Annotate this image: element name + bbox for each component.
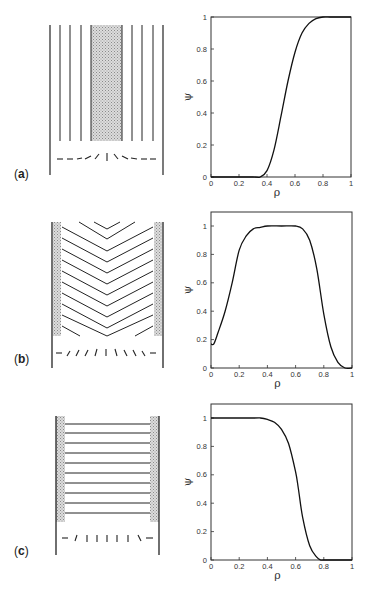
y-tick-label: 0.8 [197,45,207,54]
plot-a: 00.20.40.60.8100.20.40.60.81ρψ [181,13,353,200]
y-tick-label: 0.6 [197,77,207,86]
horizontal-layers [65,424,150,513]
x-tick-label: 0.6 [290,179,300,188]
y-tick-label: 0 [203,556,207,565]
plot-c: 00.20.40.60.8100.20.40.60.81ρψ [181,404,354,582]
y-tick-label: 0.4 [197,109,207,118]
panel-label-c: (c) [14,544,29,558]
data-curve [211,17,351,178]
y-tick-label: 1 [203,414,207,423]
x-tick-label: 0.6 [290,370,300,379]
y-tick-label: 0.4 [197,307,207,316]
y-tick-label: 0.8 [197,250,207,259]
x-tick-label: 1 [350,562,354,571]
y-tick-label: 1 [203,222,207,231]
y-tick-label: 0.4 [197,499,207,508]
director-dashes [57,153,156,161]
y-tick-label: 0.8 [197,442,207,451]
y-tick-label: 0 [203,364,207,373]
y-axis-label: ψ [181,93,194,102]
y-axis-label: ψ [181,478,194,487]
x-tick-label: 0.4 [262,562,272,571]
schematic-c [56,416,159,555]
y-tick-label: 1 [203,13,207,22]
x-tick-label: 0.4 [262,179,272,188]
director-dashes [62,535,153,542]
y-tick-label: 0.6 [197,278,207,287]
director-dashes [56,349,156,356]
x-tick-label: 0 [209,562,213,571]
y-axis-label: ψ [181,286,194,295]
x-axis-label: ρ [274,186,280,199]
stippled-region [91,25,122,141]
chevron-layers [62,222,153,336]
x-tick-label: 0.2 [234,370,244,379]
x-tick-label: 0.8 [319,370,329,379]
y-tick-label: 0.2 [197,141,207,150]
y-tick-label: 0.2 [197,527,207,536]
y-tick-label: 0.2 [197,335,207,344]
x-axis-label: ρ [274,377,280,390]
plot-b: 00.20.40.60.8100.20.40.60.81ρψ [181,212,354,390]
x-tick-label: 0.4 [262,370,272,379]
schematic-a [50,25,163,175]
plot-frame [211,17,351,177]
x-tick-label: 1 [349,179,353,188]
panel-label-a: (a) [14,167,29,181]
x-tick-label: 0.8 [318,179,328,188]
x-tick-label: 0 [209,370,213,379]
data-curve [211,226,352,369]
data-curve [211,418,352,560]
x-tick-label: 0.2 [234,562,244,571]
figure: (a) [0,0,370,590]
y-tick-label: 0.6 [197,470,207,479]
x-tick-label: 0.8 [319,562,329,571]
panel-label-b: (b) [14,352,29,366]
x-tick-label: 0.6 [290,562,300,571]
y-tick-label: 0 [203,173,207,182]
schematic-b [52,222,163,368]
plot-frame [211,404,352,560]
x-axis-label: ρ [274,569,280,582]
x-tick-label: 1 [350,370,354,379]
x-tick-label: 0.2 [234,179,244,188]
x-tick-label: 0 [209,179,213,188]
